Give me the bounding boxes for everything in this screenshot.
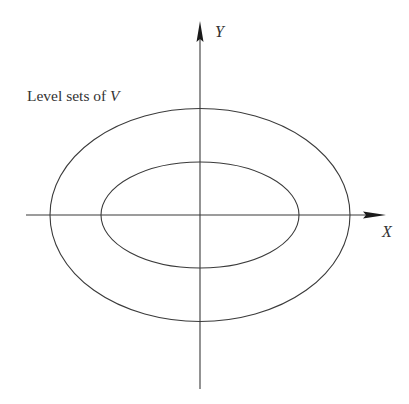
level-sets-diagram: Y X Level sets of V — [0, 0, 409, 404]
caption-variable: V — [110, 87, 121, 104]
level-sets-caption: Level sets of V — [27, 87, 121, 104]
y-axis-label: Y — [215, 23, 226, 40]
x-axis-label: X — [381, 223, 393, 240]
x-axis-arrow-icon — [363, 212, 386, 219]
caption-text: Level sets of — [27, 87, 110, 104]
y-axis-arrow-icon — [197, 21, 204, 42]
